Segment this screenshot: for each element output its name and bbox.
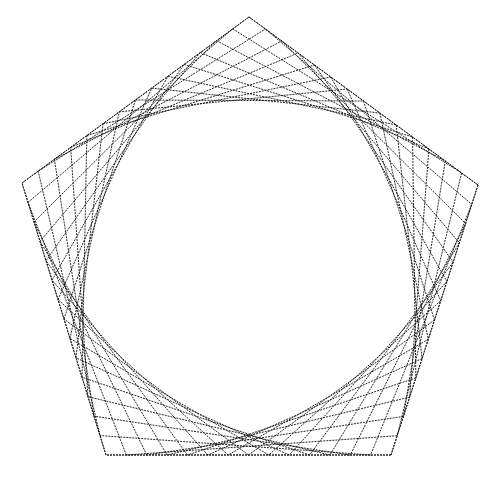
- string-line: [233, 29, 462, 173]
- string-line: [46, 64, 184, 260]
- string-line: [397, 173, 461, 436]
- string-line: [208, 359, 422, 455]
- string-line: [34, 41, 217, 222]
- string-line: [34, 222, 147, 455]
- string-line: [282, 41, 466, 224]
- string-line: [58, 88, 152, 299]
- string-line: [310, 262, 454, 455]
- string-line: [314, 65, 453, 262]
- string-line: [64, 319, 249, 455]
- string-line: [40, 53, 200, 242]
- string-line: [403, 161, 445, 416]
- pentagon-string-art: [0, 0, 503, 478]
- string-line: [347, 89, 441, 301]
- string-line: [249, 320, 435, 455]
- string-line: [94, 416, 350, 455]
- string-line: [82, 377, 310, 455]
- string-line: [396, 125, 422, 359]
- string-line: [52, 76, 168, 280]
- string-line: [70, 338, 269, 455]
- string-line: [52, 280, 208, 455]
